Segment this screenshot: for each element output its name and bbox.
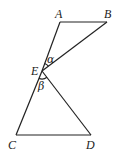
segment-ed xyxy=(42,71,91,135)
label-alpha: α xyxy=(47,53,55,66)
label-b: B xyxy=(104,7,112,21)
label-a: A xyxy=(54,7,63,21)
geometry-diagram: A B E C D α β xyxy=(0,0,122,155)
label-d: D xyxy=(85,138,95,152)
label-beta: β xyxy=(37,80,44,93)
angle-beta-arc xyxy=(39,77,47,79)
label-e: E xyxy=(30,64,39,78)
label-c: C xyxy=(8,138,17,152)
